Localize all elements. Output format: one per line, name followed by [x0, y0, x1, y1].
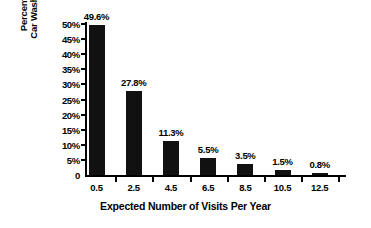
x-axis-tick-label: 10.5 — [274, 182, 291, 193]
bar-rect[interactable] — [89, 25, 105, 175]
bar-chart: Percentage of Car Wash Buyers 50%45%40%3… — [0, 0, 371, 228]
x-axis-tick-label: 12.5 — [311, 182, 328, 193]
bar-rect[interactable] — [200, 158, 216, 175]
x-axis-tick-label: 2.5 — [128, 182, 140, 193]
bar[interactable]: 3.5% — [237, 164, 253, 175]
x-axis-tick-mark — [338, 177, 340, 182]
y-axis-tick-label: 0 — [75, 170, 80, 181]
x-axis-tick-mark — [301, 177, 303, 182]
bar-rect[interactable] — [275, 170, 291, 175]
bar-rect[interactable] — [163, 141, 179, 175]
x-axis-tick-label: 0.5 — [90, 182, 102, 193]
y-axis-tick-label: 5% — [67, 154, 80, 165]
x-axis-tick-label: 6.5 — [202, 182, 214, 193]
x-axis-tick-mark — [227, 177, 229, 182]
y-axis-tick-label: 30% — [62, 79, 80, 90]
bar-value-label: 49.6% — [84, 11, 109, 22]
y-axis-tick-mark — [81, 23, 86, 25]
y-axis-tick-label: 50% — [62, 19, 80, 30]
y-axis-tick-mark — [81, 99, 86, 101]
y-axis-tick-mark — [81, 114, 86, 116]
bar-rect[interactable] — [237, 164, 253, 175]
y-axis-tick-mark — [81, 144, 86, 146]
bar-value-label: 1.5% — [272, 156, 292, 167]
y-axis-tick-mark — [81, 129, 86, 131]
x-axis-tick-mark — [152, 177, 154, 182]
y-axis-tick-mark — [81, 53, 86, 55]
x-axis-line — [85, 175, 346, 177]
x-axis-tick-mark — [115, 177, 117, 182]
y-axis-tick-mark — [81, 38, 86, 40]
bar-value-label: 0.8% — [309, 159, 329, 170]
bar-rect[interactable] — [312, 173, 328, 176]
bar-rect[interactable] — [126, 91, 142, 175]
bar[interactable]: 49.6% — [89, 25, 105, 175]
bar[interactable]: 11.3% — [163, 141, 179, 175]
y-axis-title-line-2: Car Wash Buyers — [29, 0, 39, 39]
plot-area: 50%45%40%35%30%25%20%15%10%5%049.6%27.8%… — [86, 24, 346, 175]
bar-value-label: 11.3% — [158, 127, 183, 138]
x-axis-tick-mark — [190, 177, 192, 182]
bar-value-label: 27.8% — [121, 77, 146, 88]
y-axis-tick-label: 40% — [62, 49, 80, 60]
bar[interactable]: 0.8% — [312, 173, 328, 176]
y-axis-tick-mark — [81, 83, 86, 85]
y-axis-title: Percentage of Car Wash Buyers — [14, 0, 44, 64]
x-axis-tick-label: 4.5 — [165, 182, 177, 193]
y-axis-tick-mark — [81, 68, 86, 70]
x-axis-tick-label: 8.5 — [239, 182, 251, 193]
y-axis-tick-label: 15% — [62, 124, 80, 135]
y-axis-tick-label: 35% — [62, 64, 80, 75]
bar[interactable]: 27.8% — [126, 91, 142, 175]
bar-value-label: 3.5% — [235, 150, 255, 161]
y-axis-tick-label: 25% — [62, 94, 80, 105]
y-axis-tick-label: 20% — [62, 109, 80, 120]
bar-value-label: 5.5% — [198, 144, 218, 155]
y-axis-tick-label: 10% — [62, 139, 80, 150]
y-axis-tick-label: 45% — [62, 34, 80, 45]
y-axis-tick-mark — [81, 159, 86, 161]
x-axis-title: Expected Number of Visits Per Year — [0, 200, 371, 212]
bar[interactable]: 1.5% — [275, 170, 291, 175]
x-axis-tick-mark — [264, 177, 266, 182]
bar[interactable]: 5.5% — [200, 158, 216, 175]
